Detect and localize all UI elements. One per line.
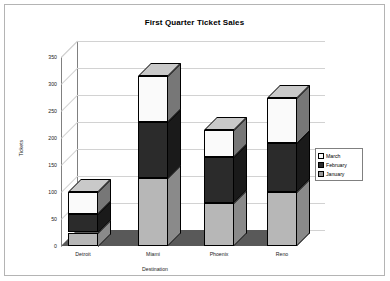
chart-frame: First Quarter Ticket Sales xyxy=(4,4,385,276)
bar-detroit xyxy=(68,192,98,246)
ytick-label-350: 350 xyxy=(33,54,57,60)
legend-swatch-icon xyxy=(318,171,324,177)
bar-front-face xyxy=(138,178,168,246)
tick-depth-150 xyxy=(61,149,78,166)
bar-phoenix xyxy=(204,130,234,246)
legend-label: January xyxy=(326,171,344,177)
tick-depth-300 xyxy=(61,68,78,85)
ytick-label-250: 250 xyxy=(33,108,57,114)
chart-screenshot: First Quarter Ticket Sales xyxy=(0,0,390,281)
bar-segment-phoenix-january xyxy=(204,203,234,246)
bar-front-face xyxy=(267,98,297,144)
bar-front-face xyxy=(267,143,297,192)
ytick-label-100: 100 xyxy=(33,189,57,195)
legend-label: March xyxy=(326,153,340,159)
bar-miami xyxy=(138,76,168,246)
bar-side-face xyxy=(168,165,181,246)
ytick-label-150: 150 xyxy=(33,162,57,168)
plot-area: 350 300 250 200 150 100 50 0 Tickets xyxy=(5,5,386,277)
ytick-label-200: 200 xyxy=(33,135,57,141)
bar-front-face xyxy=(204,203,234,246)
legend-swatch-icon xyxy=(318,153,324,159)
bar-segment-miami-march xyxy=(138,76,168,122)
bar-segment-miami-february xyxy=(138,122,168,179)
x-axis-label: Destination xyxy=(5,266,305,272)
bar-segment-miami-january xyxy=(138,178,168,246)
legend-label: February xyxy=(326,162,347,168)
tick-depth-200 xyxy=(61,122,78,139)
bar-front-face xyxy=(68,214,98,233)
bar-segment-detroit-january xyxy=(68,233,98,247)
bar-segment-detroit-february xyxy=(68,214,98,233)
ytick-label-300: 300 xyxy=(33,81,57,87)
bar-reno xyxy=(267,98,297,247)
bar-segment-reno-march xyxy=(267,98,297,144)
bar-segment-phoenix-march xyxy=(204,130,234,157)
xtick-label-phoenix: Phoenix xyxy=(192,251,246,257)
tick-depth-350 xyxy=(61,41,78,58)
bar-front-face xyxy=(204,130,234,157)
y-axis-label: Tickets xyxy=(18,123,24,173)
bar-front-face xyxy=(267,192,297,246)
bar-front-face xyxy=(68,192,98,214)
bar-front-face xyxy=(204,157,234,203)
legend-item-january[interactable]: January xyxy=(318,169,360,178)
bar-segment-reno-january xyxy=(267,192,297,246)
bar-front-face xyxy=(138,76,168,122)
xtick-label-miami: Miami xyxy=(126,251,180,257)
tick-depth-250 xyxy=(61,95,78,112)
bar-segment-phoenix-february xyxy=(204,157,234,203)
ytick-label-50: 50 xyxy=(33,216,57,222)
xtick-label-reno: Reno xyxy=(255,251,309,257)
bar-segment-detroit-march xyxy=(68,192,98,214)
legend-item-march[interactable]: March xyxy=(318,151,360,160)
bar-front-face xyxy=(68,233,98,247)
gridline-300 xyxy=(77,68,325,69)
bar-segment-reno-february xyxy=(267,143,297,192)
legend-item-february[interactable]: February xyxy=(318,160,360,169)
bar-front-face xyxy=(138,122,168,179)
legend: March February January xyxy=(315,148,363,181)
ytick-label-0: 0 xyxy=(33,243,57,249)
xtick-label-detroit: Detroit xyxy=(56,251,110,257)
legend-swatch-icon xyxy=(318,162,324,168)
gridline-350 xyxy=(77,41,325,42)
